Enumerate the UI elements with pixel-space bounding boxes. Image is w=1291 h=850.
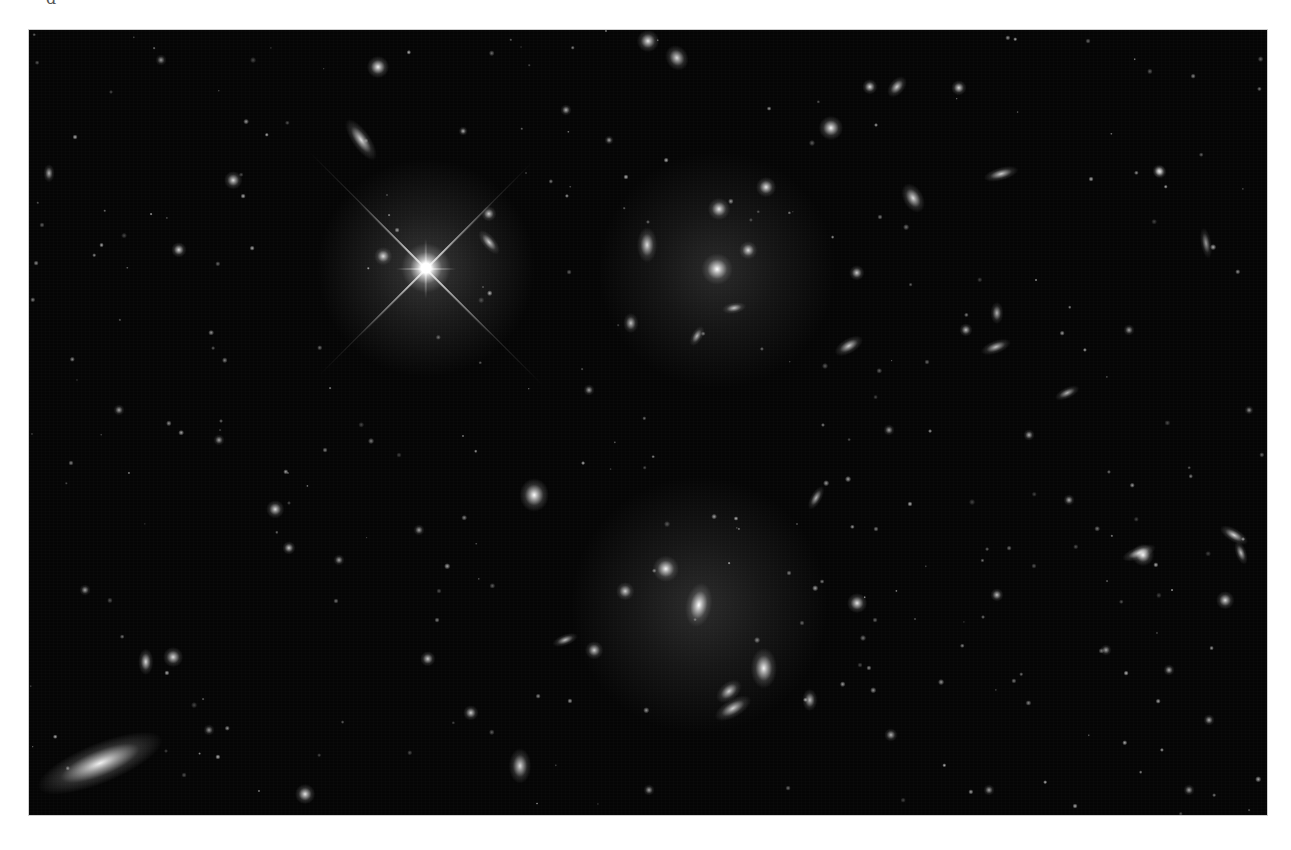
faint-source [406, 50, 410, 54]
faint-source [1043, 780, 1047, 784]
galaxy [114, 405, 125, 416]
faint-source [270, 47, 272, 49]
astronomical-image [29, 30, 1267, 815]
faint-source [209, 330, 215, 336]
galaxy [80, 585, 91, 596]
galaxy [1132, 544, 1154, 566]
galaxy [1232, 540, 1251, 566]
faint-source [1242, 188, 1244, 190]
galaxy [702, 254, 733, 285]
faint-source [1212, 794, 1216, 798]
faint-source [250, 246, 255, 251]
galaxy [584, 385, 595, 396]
faint-source [1019, 672, 1023, 676]
galaxy [459, 127, 468, 136]
faint-source [908, 282, 913, 287]
faint-source [1035, 278, 1038, 281]
faint-source [166, 421, 171, 426]
faint-source [118, 318, 121, 321]
faint-source [831, 235, 835, 239]
faint-source [306, 485, 308, 487]
faint-source [121, 233, 127, 239]
faint-source [895, 589, 897, 591]
galaxy [171, 242, 186, 257]
faint-source [1026, 700, 1031, 705]
galaxy [847, 593, 867, 613]
faint-source [943, 763, 946, 766]
galaxy [509, 748, 531, 783]
galaxy [340, 115, 382, 165]
faint-source [103, 209, 107, 213]
galaxy [561, 105, 572, 116]
galaxy [1124, 325, 1135, 336]
faint-source [581, 461, 585, 465]
faint-source [567, 699, 572, 704]
faint-source [126, 267, 128, 269]
faint-source [218, 90, 220, 92]
faint-source [1258, 56, 1264, 62]
faint-source [614, 441, 616, 443]
faint-source [969, 499, 975, 505]
galaxy [282, 541, 295, 554]
galaxy [616, 582, 634, 600]
faint-source [133, 36, 135, 38]
faint-source [1122, 740, 1128, 746]
galaxy [637, 30, 659, 52]
faint-source [756, 210, 760, 214]
faint-source [1134, 517, 1138, 521]
faint-source [858, 663, 863, 668]
faint-source [1248, 809, 1251, 812]
faint-source [474, 450, 478, 454]
galaxy [751, 648, 777, 688]
faint-source [872, 618, 877, 623]
faint-source [963, 621, 965, 623]
faint-source [1160, 748, 1164, 752]
faint-source [860, 635, 866, 641]
faint-source [215, 754, 220, 759]
faint-source [800, 621, 805, 626]
galaxy [420, 651, 435, 666]
faint-source [749, 217, 753, 221]
faint-source [536, 802, 539, 805]
faint-source [1007, 545, 1012, 550]
faint-source [1151, 219, 1157, 225]
faint-source [850, 525, 854, 529]
faint-source [152, 47, 155, 50]
faint-source [489, 729, 495, 735]
galaxy [605, 136, 614, 145]
faint-source [489, 51, 495, 57]
faint-source [901, 798, 906, 803]
faint-source [604, 30, 607, 32]
galaxy [756, 177, 776, 197]
galaxy [739, 241, 757, 259]
faint-source [520, 46, 522, 48]
galaxy [644, 785, 655, 796]
faint-source [1106, 579, 1109, 582]
galaxy [637, 227, 657, 262]
faint-source [1133, 58, 1136, 61]
faint-source [623, 174, 628, 179]
faint-source [287, 501, 291, 505]
faint-source [1255, 776, 1261, 782]
faint-source [225, 726, 229, 730]
faint-source [955, 98, 957, 100]
faint-source [1165, 421, 1170, 426]
faint-source [1032, 564, 1037, 569]
faint-source [30, 685, 33, 688]
faint-source [461, 515, 467, 521]
faint-source [365, 536, 368, 539]
faint-source [215, 261, 220, 266]
faint-source [791, 210, 793, 212]
faint-source [285, 121, 289, 125]
faint-source [1014, 37, 1018, 41]
faint-source [164, 749, 168, 753]
galaxy [862, 79, 877, 94]
faint-source [571, 45, 576, 50]
faint-source [1147, 69, 1152, 74]
faint-source [243, 119, 249, 125]
galaxy [138, 649, 153, 675]
faint-source [452, 721, 455, 724]
faint-source [1073, 544, 1078, 549]
faint-source [787, 571, 792, 576]
faint-source [821, 423, 825, 427]
